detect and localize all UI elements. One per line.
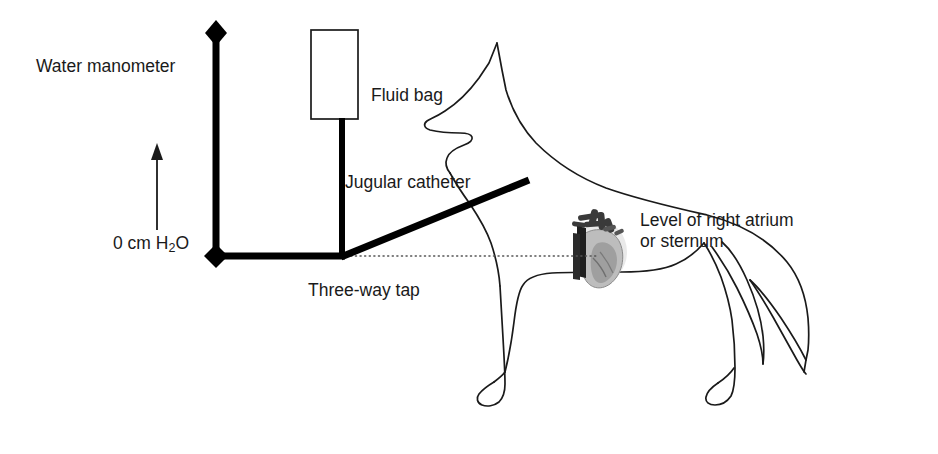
zero-reference-tail: O	[175, 233, 189, 253]
cvp-measurement-diagram: Water manometer Fluid bag Jugular cathet…	[0, 0, 938, 454]
pressure-height-arrow	[151, 143, 163, 230]
three-way-tap-diamond-marker	[204, 244, 228, 268]
label-zero-reference: 0 cm H2O	[113, 233, 189, 256]
fluid-bag	[311, 30, 358, 119]
heart-illustration	[572, 209, 627, 288]
label-water-manometer: Water manometer	[36, 56, 175, 77]
label-jugular-catheter: Jugular catheter	[345, 172, 471, 193]
label-level-of-right-atrium: Level of right atriumor sternum	[640, 210, 794, 253]
level-label-line-1: Level of right atrium	[640, 210, 794, 230]
label-three-way-tap: Three-way tap	[308, 280, 420, 301]
level-label-line-2: or sternum	[640, 231, 794, 252]
manometer-top-diamond-marker	[205, 20, 227, 46]
label-fluid-bag: Fluid bag	[371, 85, 443, 106]
zero-reference-text: 0 cm H	[113, 233, 168, 253]
